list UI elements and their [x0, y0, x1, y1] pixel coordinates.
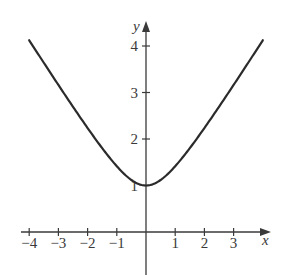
x-tick-label: 1: [171, 235, 179, 251]
x-tick-label: −3: [50, 235, 66, 251]
y-tick-label: 2: [131, 131, 139, 147]
y-axis-label: y: [131, 18, 140, 34]
x-tick-label: 2: [201, 235, 209, 251]
y-axis-arrow-icon: [142, 21, 150, 32]
y-tick-label: 4: [131, 38, 139, 54]
x-tick-label: 3: [230, 235, 238, 251]
y-ticks: 1234: [131, 38, 151, 194]
x-axis-label: x: [261, 232, 269, 248]
function-plot: −4−3−2−1123 1234 x y: [0, 0, 289, 275]
x-tick-label: −2: [80, 235, 96, 251]
y-tick-label: 3: [131, 85, 139, 101]
x-tick-label: −1: [109, 235, 125, 251]
x-tick-label: −4: [21, 235, 37, 251]
